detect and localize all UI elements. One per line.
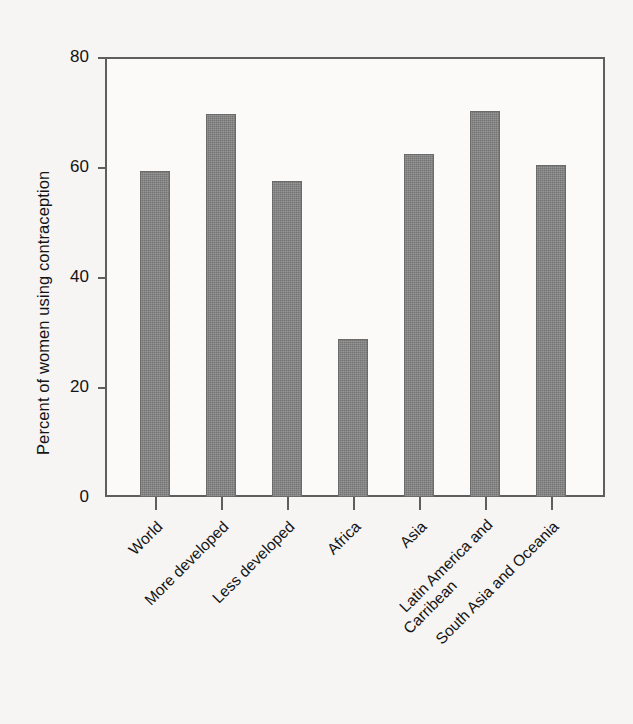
bar-chart-figure: Percent of women using contraception 80 … [0,0,633,724]
x-label-africa-line1: Africa [324,518,364,558]
x-axis-labels: World More developed Less developed Afri… [0,0,633,724]
x-label-world-line1: World [125,518,165,558]
x-label-asia-line1: Asia [396,518,429,551]
